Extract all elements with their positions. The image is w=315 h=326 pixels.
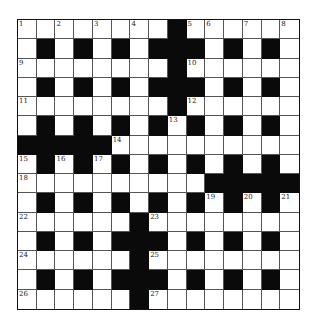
- grid-cell[interactable]: 24: [18, 251, 37, 270]
- grid-cell[interactable]: [205, 97, 224, 116]
- grid-cell[interactable]: [205, 39, 224, 58]
- grid-cell[interactable]: [243, 136, 262, 155]
- grid-cell[interactable]: [168, 290, 187, 309]
- grid-cell[interactable]: [168, 232, 187, 251]
- grid-cell[interactable]: [74, 213, 93, 232]
- grid-cell[interactable]: [280, 232, 299, 251]
- grid-cell[interactable]: [205, 116, 224, 135]
- grid-cell[interactable]: [112, 59, 131, 78]
- grid-cell[interactable]: 7: [243, 20, 262, 39]
- grid-cell[interactable]: [168, 155, 187, 174]
- grid-cell[interactable]: [243, 232, 262, 251]
- grid-cell[interactable]: [205, 232, 224, 251]
- grid-cell[interactable]: [55, 174, 74, 193]
- grid-cell[interactable]: [130, 97, 149, 116]
- grid-cell[interactable]: [205, 251, 224, 270]
- grid-cell[interactable]: 5: [187, 20, 206, 39]
- grid-cell[interactable]: 19: [205, 193, 224, 212]
- grid-cell[interactable]: [37, 290, 56, 309]
- grid-cell[interactable]: [112, 213, 131, 232]
- grid-cell[interactable]: [187, 251, 206, 270]
- grid-cell[interactable]: [243, 251, 262, 270]
- grid-cell[interactable]: [55, 232, 74, 251]
- grid-cell[interactable]: 25: [149, 251, 168, 270]
- grid-cell[interactable]: [243, 39, 262, 58]
- grid-cell[interactable]: [55, 39, 74, 58]
- grid-cell[interactable]: [149, 59, 168, 78]
- grid-cell[interactable]: [243, 155, 262, 174]
- grid-cell[interactable]: [93, 116, 112, 135]
- grid-cell[interactable]: 2: [55, 20, 74, 39]
- grid-cell[interactable]: [224, 136, 243, 155]
- grid-cell[interactable]: 17: [93, 155, 112, 174]
- grid-cell[interactable]: [93, 97, 112, 116]
- grid-cell[interactable]: [262, 59, 281, 78]
- grid-cell[interactable]: 3: [93, 20, 112, 39]
- grid-cell[interactable]: [280, 136, 299, 155]
- grid-cell[interactable]: [93, 78, 112, 97]
- grid-cell[interactable]: [55, 97, 74, 116]
- grid-cell[interactable]: 8: [280, 20, 299, 39]
- grid-cell[interactable]: [224, 97, 243, 116]
- grid-cell[interactable]: [280, 155, 299, 174]
- grid-cell[interactable]: [205, 78, 224, 97]
- grid-cell[interactable]: [93, 174, 112, 193]
- grid-cell[interactable]: [149, 136, 168, 155]
- grid-cell[interactable]: 26: [18, 290, 37, 309]
- grid-cell[interactable]: [74, 174, 93, 193]
- grid-cell[interactable]: 14: [112, 136, 131, 155]
- grid-cell[interactable]: [243, 78, 262, 97]
- grid-cell[interactable]: 1: [18, 20, 37, 39]
- grid-cell[interactable]: [74, 20, 93, 39]
- grid-cell[interactable]: [280, 97, 299, 116]
- grid-cell[interactable]: [224, 20, 243, 39]
- grid-cell[interactable]: [280, 270, 299, 289]
- grid-cell[interactable]: [18, 78, 37, 97]
- grid-cell[interactable]: [130, 136, 149, 155]
- grid-cell[interactable]: 4: [130, 20, 149, 39]
- grid-cell[interactable]: [149, 97, 168, 116]
- grid-cell[interactable]: [205, 59, 224, 78]
- grid-cell[interactable]: [262, 20, 281, 39]
- grid-cell[interactable]: [280, 251, 299, 270]
- grid-cell[interactable]: [280, 116, 299, 135]
- grid-cell[interactable]: [37, 213, 56, 232]
- grid-cell[interactable]: [74, 290, 93, 309]
- grid-cell[interactable]: [168, 251, 187, 270]
- grid-cell[interactable]: [130, 116, 149, 135]
- grid-cell[interactable]: [205, 270, 224, 289]
- grid-cell[interactable]: [55, 116, 74, 135]
- grid-cell[interactable]: [243, 290, 262, 309]
- grid-cell[interactable]: [18, 39, 37, 58]
- grid-cell[interactable]: [37, 251, 56, 270]
- grid-cell[interactable]: [280, 213, 299, 232]
- grid-cell[interactable]: [262, 251, 281, 270]
- grid-cell[interactable]: [93, 270, 112, 289]
- grid-cell[interactable]: [262, 97, 281, 116]
- grid-cell[interactable]: [55, 270, 74, 289]
- grid-cell[interactable]: [55, 213, 74, 232]
- grid-cell[interactable]: [187, 136, 206, 155]
- grid-cell[interactable]: [18, 232, 37, 251]
- grid-cell[interactable]: [224, 290, 243, 309]
- grid-cell[interactable]: [205, 155, 224, 174]
- grid-cell[interactable]: 18: [18, 174, 37, 193]
- grid-cell[interactable]: [168, 213, 187, 232]
- grid-cell[interactable]: [74, 59, 93, 78]
- grid-cell[interactable]: 23: [149, 213, 168, 232]
- grid-cell[interactable]: 10: [187, 59, 206, 78]
- grid-cell[interactable]: [93, 213, 112, 232]
- grid-cell[interactable]: [112, 174, 131, 193]
- grid-cell[interactable]: [205, 290, 224, 309]
- grid-cell[interactable]: [93, 59, 112, 78]
- grid-cell[interactable]: [93, 232, 112, 251]
- grid-cell[interactable]: [112, 251, 131, 270]
- grid-cell[interactable]: 13: [168, 116, 187, 135]
- grid-cell[interactable]: 22: [18, 213, 37, 232]
- grid-cell[interactable]: [149, 20, 168, 39]
- grid-cell[interactable]: [112, 97, 131, 116]
- grid-cell[interactable]: [280, 290, 299, 309]
- grid-cell[interactable]: [243, 116, 262, 135]
- grid-cell[interactable]: [205, 136, 224, 155]
- grid-cell[interactable]: 21: [280, 193, 299, 212]
